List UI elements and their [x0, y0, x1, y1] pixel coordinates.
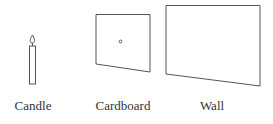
candle-icon — [30, 35, 36, 84]
cardboard-icon — [96, 15, 150, 73]
wall-label: Wall — [200, 98, 224, 114]
cardboard-label: Cardboard — [96, 98, 151, 114]
pinhole-camera-diagram: Candle Cardboard Wall — [0, 0, 273, 124]
pinhole-icon — [119, 40, 122, 43]
wall-icon — [166, 6, 260, 87]
candle-label: Candle — [15, 98, 52, 114]
